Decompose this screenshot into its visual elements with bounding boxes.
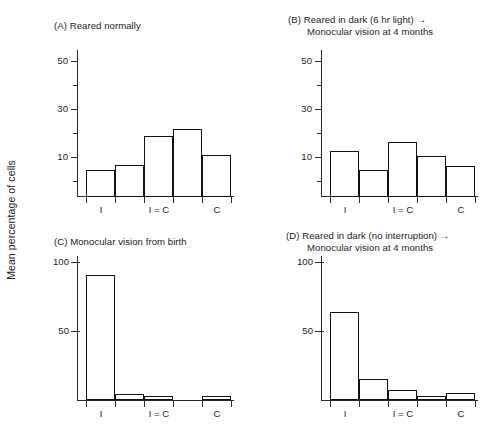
- panel-a-xlabel-i: I: [80, 204, 122, 215]
- panel-d-plot: 100 50 I I = C C: [284, 230, 488, 432]
- panel-c-xlabel-c: C: [195, 408, 239, 419]
- panel-b: (B) Reared in dark (6 hr light) → Monocu…: [284, 14, 488, 216]
- panel-c-bar-2: [115, 394, 144, 400]
- panel-d-x-axis: [321, 400, 478, 401]
- panel-c-plot: 100 50 I I = C C: [40, 230, 244, 432]
- panel-a: (A) Reared normally 50 30 10 I: [40, 14, 244, 216]
- panel-d-xlabel-i: I: [324, 408, 366, 419]
- shared-y-axis-label: Mean percentage of cells: [0, 120, 22, 320]
- panel-b-bar-2: [359, 170, 388, 197]
- panel-c-xlabel-i: I: [80, 408, 122, 419]
- panel-a-xlabel-c: C: [195, 204, 239, 215]
- panel-a-xtick-1: [86, 197, 87, 203]
- panel-b-y-axis: [321, 50, 322, 197]
- panel-d-bar-4: [417, 396, 446, 400]
- panel-a-xtick-3: [144, 197, 145, 203]
- panel-d-xtick-4: [417, 401, 418, 407]
- panel-d-xlabel-c: C: [439, 408, 483, 419]
- panel-a-ytick-40: [73, 85, 78, 86]
- panel-a-bar-5: [202, 155, 231, 197]
- panel-b-bar-4: [417, 156, 446, 197]
- panel-a-xtick-4: [173, 197, 174, 203]
- panel-d-xtick-6: [475, 401, 476, 407]
- panel-b-ytick-10: [315, 157, 322, 158]
- panel-c-bar-3: [144, 396, 173, 400]
- panel-a-ylabel-30: 30: [44, 103, 68, 114]
- panel-c-bar-5: [202, 396, 231, 400]
- panel-b-ytick-30: [315, 109, 322, 110]
- panel-c-ylabel-50: 50: [42, 325, 69, 336]
- panel-d-xtick-1: [330, 401, 331, 407]
- panel-a-xlabel-i-equals-c: I = C: [137, 204, 181, 215]
- panel-a-ytick-30: [71, 109, 78, 110]
- panel-c-ytick-50: [71, 331, 80, 332]
- panel-c-xtick-5: [202, 401, 203, 407]
- panel-a-ytick-10: [71, 157, 78, 158]
- panel-d-bar-1: [330, 312, 359, 400]
- panel-a-xtick-5: [202, 197, 203, 203]
- panel-a-bar-2: [115, 165, 144, 197]
- panel-c-xtick-1: [86, 401, 87, 407]
- panel-c-ylabel-100: 100: [42, 256, 69, 267]
- panel-c: (C) Monocular vision from birth 100 50 I…: [40, 230, 244, 432]
- panel-b-xlabel-i: I: [324, 204, 366, 215]
- panel-a-ylabel-10: 10: [44, 151, 68, 162]
- panel-a-ytick-0: [73, 181, 78, 182]
- panel-c-xtick-3: [144, 401, 145, 407]
- figure-histogram-grid: Mean percentage of cells (A) Reared norm…: [0, 0, 488, 432]
- panel-c-xtick-6: [231, 401, 232, 407]
- panel-b-xtick-4: [417, 197, 418, 203]
- panel-a-y-axis: [77, 50, 78, 197]
- panel-d-xlabel-i-equals-c: I = C: [381, 408, 425, 419]
- panel-d-ytick-100: [315, 262, 324, 263]
- panel-b-xtick-6: [475, 197, 476, 203]
- panel-d-xtick-2: [359, 401, 360, 407]
- panel-c-xtick-2: [115, 401, 116, 407]
- panel-a-ylabel-50: 50: [44, 55, 68, 66]
- panel-a-bar-1: [86, 170, 115, 197]
- panel-b-ylabel-30: 30: [288, 103, 312, 114]
- panel-a-ytick-20: [73, 133, 78, 134]
- panel-b-bar-5: [446, 166, 475, 197]
- panel-c-x-axis: [77, 400, 234, 401]
- panel-b-ytick-50: [315, 61, 322, 62]
- panel-b-plot: 50 30 10 I I = C C: [284, 14, 488, 216]
- panel-d-bar-2: [359, 379, 388, 400]
- panel-b-bar-3: [388, 142, 417, 197]
- panel-d-ylabel-100: 100: [286, 256, 313, 267]
- panel-d: (D) Reared in dark (no interruption) → M…: [284, 230, 488, 432]
- panel-b-xlabel-i-equals-c: I = C: [381, 204, 425, 215]
- panel-a-bar-4: [173, 129, 202, 197]
- panel-c-bar-1: [86, 275, 115, 400]
- panel-b-xlabel-c: C: [439, 204, 483, 215]
- panel-b-ylabel-10: 10: [288, 151, 312, 162]
- panel-d-ylabel-50: 50: [286, 325, 313, 336]
- panel-d-y-axis: [321, 256, 322, 401]
- panel-b-ytick-0: [317, 181, 322, 182]
- panel-d-bar-5: [446, 393, 475, 400]
- panel-b-xtick-2: [359, 197, 360, 203]
- panel-b-xtick-1: [330, 197, 331, 203]
- panel-a-xtick-6: [231, 197, 232, 203]
- panel-c-xtick-4: [173, 401, 174, 407]
- panel-a-xtick-2: [115, 197, 116, 203]
- panel-a-ytick-50: [71, 61, 78, 62]
- panel-b-bar-1: [330, 151, 359, 197]
- panel-b-ylabel-50: 50: [288, 55, 312, 66]
- panel-b-ytick-40: [317, 85, 322, 86]
- panel-a-plot: 50 30 10 I I = C C: [40, 14, 244, 216]
- panel-b-xtick-3: [388, 197, 389, 203]
- panel-a-bar-3: [144, 136, 173, 197]
- panel-d-ytick-50: [315, 331, 324, 332]
- shared-y-axis-label-text: Mean percentage of cells: [5, 160, 17, 280]
- panel-b-ytick-20: [317, 133, 322, 134]
- panel-b-xtick-5: [446, 197, 447, 203]
- panel-d-bar-3: [388, 390, 417, 400]
- panel-c-ytick-100: [71, 262, 80, 263]
- panel-d-xtick-5: [446, 401, 447, 407]
- panel-c-y-axis: [77, 256, 78, 401]
- panel-c-xlabel-i-equals-c: I = C: [137, 408, 181, 419]
- panel-d-xtick-3: [388, 401, 389, 407]
